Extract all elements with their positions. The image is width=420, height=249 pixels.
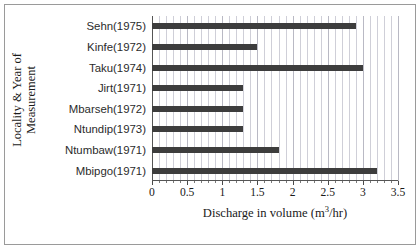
y-tick-label: Ntumbaw(1971) — [44, 140, 150, 161]
x-tick-minor — [236, 181, 237, 183]
x-tick-minor — [356, 181, 357, 183]
x-tick-label: 2 — [290, 186, 296, 199]
x-tick-minor — [314, 181, 315, 183]
y-axis-title: Locality & Year of Measurement — [2, 10, 46, 190]
x-tick-minor — [243, 181, 244, 183]
bar-slot — [152, 57, 398, 78]
bar-series — [152, 16, 398, 181]
bar[interactable] — [152, 168, 377, 174]
y-tick-label: Kinfe(1972) — [44, 37, 150, 58]
bar[interactable] — [152, 65, 363, 71]
x-tick-major — [222, 181, 223, 185]
x-tick-minor — [271, 181, 272, 183]
x-tick-major — [257, 181, 258, 185]
x-tick-minor — [286, 181, 287, 183]
bar-slot — [152, 160, 398, 181]
y-axis-title-line1: Locality & Year of — [10, 53, 24, 147]
y-axis-title-line2: Measurement — [24, 53, 38, 147]
y-tick-label: Mbipgo(1971) — [44, 160, 150, 181]
y-tick-label: Jirt(1971) — [44, 78, 150, 99]
x-tick-label: 0.5 — [180, 186, 195, 199]
bar-slot — [152, 119, 398, 140]
y-tick-label: Sehn(1975) — [44, 16, 150, 37]
x-tick-minor — [229, 181, 230, 183]
x-tick-minor — [300, 181, 301, 183]
x-axis-title: Discharge in volume (m3/hr) — [150, 204, 400, 221]
x-tick-minor — [194, 181, 195, 183]
x-tick-label: 0 — [149, 186, 155, 199]
x-tick-label: 3 — [360, 186, 366, 199]
x-tick-minor — [384, 181, 385, 183]
bar[interactable] — [152, 23, 356, 29]
x-tick-major — [328, 181, 329, 185]
bar[interactable] — [152, 147, 279, 153]
y-axis-line — [152, 16, 153, 181]
y-axis-tick-labels: Sehn(1975) Kinfe(1972) Taku(1974) Jirt(1… — [44, 16, 150, 181]
x-tick-minor — [342, 181, 343, 183]
x-tick-label: 1 — [219, 186, 225, 199]
bar-slot — [152, 78, 398, 99]
x-tick-label: 3.5 — [391, 186, 406, 199]
chart-figure: Locality & Year of Measurement Sehn(1975… — [0, 0, 420, 249]
y-tick-label: Taku(1974) — [44, 57, 150, 78]
bar[interactable] — [152, 44, 257, 50]
x-axis-title-post: /hr) — [329, 206, 347, 220]
x-tick-major — [398, 181, 399, 185]
x-tick-minor — [201, 181, 202, 183]
x-tick-minor — [377, 181, 378, 183]
bar-slot — [152, 16, 398, 37]
x-tick-label: 1.5 — [250, 186, 265, 199]
x-tick-minor — [215, 181, 216, 183]
bar[interactable] — [152, 85, 243, 91]
y-tick-label: Mbarseh(1972) — [44, 99, 150, 120]
x-tick-major — [187, 181, 188, 185]
x-axis-tick-labels: 00.511.522.533.5 — [152, 186, 398, 202]
x-tick-minor — [166, 181, 167, 183]
x-tick-minor — [349, 181, 350, 183]
x-tick-minor — [335, 181, 336, 183]
bar-slot — [152, 99, 398, 120]
x-tick-minor — [180, 181, 181, 183]
x-tick-minor — [391, 181, 392, 183]
y-tick-label: Ntundip(1973) — [44, 119, 150, 140]
x-tick-major — [363, 181, 364, 185]
bar[interactable] — [152, 126, 243, 132]
plot-area — [152, 16, 398, 181]
bar[interactable] — [152, 106, 243, 112]
x-tick-minor — [159, 181, 160, 183]
x-tick-minor — [279, 181, 280, 183]
x-tick-minor — [208, 181, 209, 183]
x-tick-minor — [264, 181, 265, 183]
x-tick-minor — [173, 181, 174, 183]
x-tick-major — [152, 181, 153, 185]
bar-slot — [152, 37, 398, 58]
x-tick-minor — [250, 181, 251, 183]
x-tick-minor — [307, 181, 308, 183]
x-tick-label: 2.5 — [320, 186, 335, 199]
bar-slot — [152, 140, 398, 161]
x-tick-major — [293, 181, 294, 185]
x-tick-minor — [370, 181, 371, 183]
x-tick-minor — [321, 181, 322, 183]
x-axis-title-pre: Discharge in volume (m — [203, 206, 325, 220]
